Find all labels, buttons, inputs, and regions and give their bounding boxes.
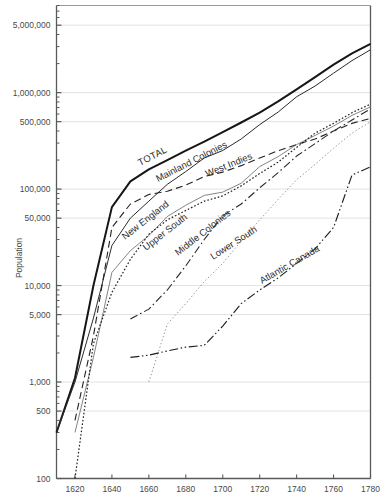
y-tick-label: 50,000 xyxy=(25,213,51,223)
x-tick-label: 1680 xyxy=(176,484,195,494)
y-tick-label: 100,000 xyxy=(20,184,51,194)
x-tick-label: 1660 xyxy=(139,484,158,494)
population-chart: 1005001,0005,00010,00050,000100,000500,0… xyxy=(0,0,383,502)
x-tick-label: 1760 xyxy=(324,484,343,494)
y-tick-label: 100 xyxy=(36,474,50,484)
y-tick-label: 10,000 xyxy=(25,281,51,291)
y-tick-label: 500 xyxy=(36,406,50,416)
x-axis-tick-labels: 162016401660168017001720174017601780 xyxy=(66,484,381,494)
x-tick-label: 1640 xyxy=(102,484,121,494)
y-tick-label: 5,000,000 xyxy=(13,20,51,30)
x-tick-label: 1700 xyxy=(213,484,232,494)
y-axis-title: Population xyxy=(14,238,24,278)
x-tick-label: 1780 xyxy=(361,484,380,494)
y-tick-label: 5,000 xyxy=(29,310,51,320)
x-tick-label: 1720 xyxy=(250,484,269,494)
x-tick-label: 1620 xyxy=(66,484,85,494)
y-tick-label: 1,000,000 xyxy=(13,88,51,98)
x-tick-label: 1740 xyxy=(287,484,306,494)
y-tick-label: 500,000 xyxy=(20,117,51,127)
chart-canvas: 1005001,0005,00010,00050,000100,000500,0… xyxy=(0,0,383,502)
y-tick-label: 1,000 xyxy=(29,377,51,387)
